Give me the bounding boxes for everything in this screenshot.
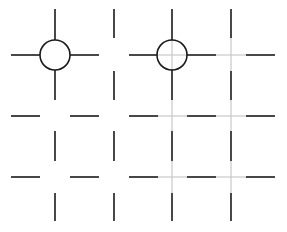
grid-diagram bbox=[0, 0, 287, 232]
